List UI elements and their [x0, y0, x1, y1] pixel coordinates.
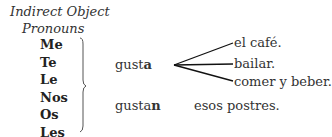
verb-stem: gust	[115, 57, 144, 72]
object-bailar: bailar.	[234, 56, 275, 71]
verb-gusta: gusta	[115, 57, 152, 72]
brace-icon	[80, 38, 86, 132]
verb-stem: gusta	[115, 98, 151, 113]
object-el-cafe: el café.	[234, 35, 282, 50]
object-esos-postres: esos postres.	[194, 98, 280, 113]
object-comer-y-beber: comer y beber.	[234, 74, 332, 89]
verb-gustan: gustan	[115, 98, 161, 113]
verb-ending: n	[151, 98, 160, 113]
verb-ending: a	[144, 57, 152, 72]
